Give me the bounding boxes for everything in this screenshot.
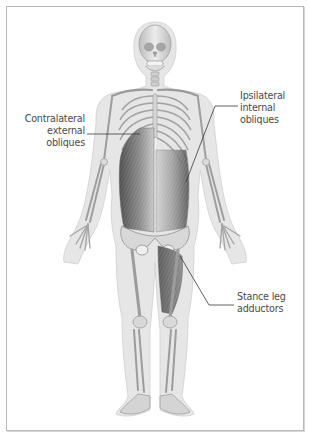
label-line: Stance leg (237, 291, 286, 303)
label-ipsilateral-internal-obliques: Ipsilateral internal obliques (240, 90, 285, 126)
label-line: external (25, 125, 85, 137)
label-line: obliques (240, 114, 285, 126)
knees (133, 316, 177, 328)
label-line: internal (240, 102, 285, 114)
skeleton-figure (0, 0, 309, 438)
label-stance-leg-adductors: Stance leg adductors (237, 291, 286, 315)
label-line: Contralateral (25, 113, 85, 125)
label-line: adductors (237, 303, 286, 315)
label-contralateral-external-obliques: Contralateral external obliques (25, 113, 85, 149)
label-line: obliques (25, 137, 85, 149)
cervical-spine (151, 72, 159, 86)
label-line: Ipsilateral (240, 90, 285, 102)
